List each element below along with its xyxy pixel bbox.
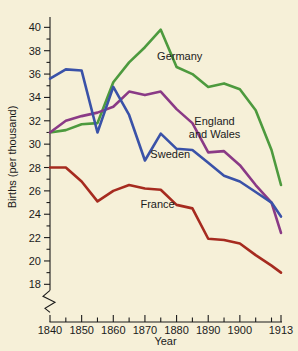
birth-rate-line-chart: 182022242628303234363840 184018501860187… xyxy=(0,0,298,351)
x-tick-label: 1850 xyxy=(69,324,93,336)
y-tick-label: 34 xyxy=(29,91,41,103)
x-tick-label: 1913 xyxy=(269,324,293,336)
y-tick-label: 32 xyxy=(29,115,41,127)
series-label-germany: Germany xyxy=(157,50,203,62)
y-tick-label: 20 xyxy=(29,255,41,267)
figure-container: 182022242628303234363840 184018501860187… xyxy=(0,0,298,351)
y-tick-label: 36 xyxy=(29,68,41,80)
chart-background xyxy=(0,0,298,351)
x-tick-label: 1890 xyxy=(196,324,220,336)
y-tick-label: 28 xyxy=(29,162,41,174)
y-tick-label: 30 xyxy=(29,138,41,150)
y-tick-label: 24 xyxy=(29,208,41,220)
plot-background xyxy=(0,0,298,351)
y-axis-title: Births (per thousand) xyxy=(6,106,18,209)
y-tick-label: 40 xyxy=(29,21,41,33)
series-label-england-and-wales: England xyxy=(194,115,234,127)
x-axis-title: Year xyxy=(154,335,177,347)
y-tick-label: 26 xyxy=(29,185,41,197)
x-tick-label: 1900 xyxy=(228,324,252,336)
x-tick-label: 1860 xyxy=(101,324,125,336)
series-label-england-and-wales-line2: and Wales xyxy=(189,128,241,140)
y-tick-label: 18 xyxy=(29,278,41,290)
series-label-sweden: Sweden xyxy=(150,148,190,160)
series-label-france: France xyxy=(140,198,174,210)
x-tick-label: 1840 xyxy=(38,324,62,336)
y-tick-label: 38 xyxy=(29,45,41,57)
y-tick-label: 22 xyxy=(29,232,41,244)
